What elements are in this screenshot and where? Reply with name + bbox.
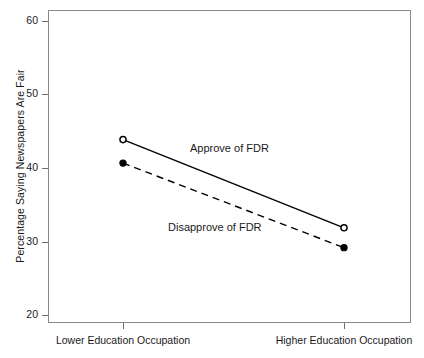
x-tick-mark: [123, 323, 124, 329]
y-tick-label: 60: [12, 14, 38, 26]
y-tick-label: 40: [12, 161, 38, 173]
x-tick-mark: [344, 323, 345, 329]
chart-figure: Percentage Saying Newspapers Are Fair 60…: [0, 0, 424, 358]
plot-area: [48, 10, 411, 323]
x-tick-label: Higher Education Occupation: [254, 334, 424, 346]
series-label-approve-of-fdr: Approve of FDR: [190, 142, 269, 154]
y-tick-label: 30: [12, 235, 38, 247]
series-label-disapprove-of-fdr: Disapprove of FDR: [168, 221, 262, 233]
y-tick-label: 50: [12, 87, 38, 99]
x-tick-label: Lower Education Occupation: [33, 334, 213, 346]
y-tick-label: 20: [12, 308, 38, 320]
